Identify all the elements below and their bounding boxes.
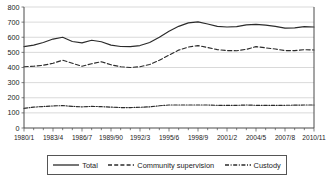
chart-legend: Total Community supervision Custody bbox=[47, 155, 287, 175]
line-chart-plot: 0100200300400500600700800 1980/11983/419… bbox=[0, 0, 330, 152]
x-axis-tick-label: 1986/7 bbox=[72, 134, 93, 141]
legend-entry-custody: Custody bbox=[225, 161, 281, 170]
x-axis-tick-label: 1992/3 bbox=[130, 134, 151, 141]
x-axis-tick-label: 1995/6 bbox=[159, 134, 180, 141]
solid-line-swatch bbox=[53, 161, 79, 169]
legend-entry-total: Total bbox=[53, 161, 98, 170]
legend-label-total: Total bbox=[82, 161, 98, 170]
x-axis-tick-label: 2001/2 bbox=[217, 134, 238, 141]
x-axis-tick-label: 1980/1 bbox=[14, 134, 35, 141]
x-axis-tick-label: 2007/8 bbox=[275, 134, 296, 141]
series-line-total bbox=[24, 22, 314, 47]
y-axis-tick-label: 500 bbox=[8, 48, 20, 57]
dashdot-line-swatch bbox=[225, 161, 251, 169]
x-axis-tick-label: 2010/11 bbox=[302, 134, 326, 141]
legend-label-community-supervision: Community supervision bbox=[137, 161, 214, 170]
x-axis-tick-label: 2004/5 bbox=[246, 134, 267, 141]
x-axis-tick-label: 1983/4 bbox=[43, 134, 64, 141]
series-line-custody bbox=[24, 105, 314, 108]
dashed-line-swatch bbox=[108, 161, 134, 169]
y-axis-tick-label: 300 bbox=[8, 78, 20, 87]
y-axis-tick-label: 400 bbox=[8, 63, 20, 72]
x-axis-tick-marks bbox=[24, 128, 314, 132]
x-axis-tick-label: 1989/90 bbox=[99, 134, 123, 141]
y-axis-tick-labels: 0100200300400500600700800 bbox=[8, 3, 20, 133]
y-axis-tick-label: 800 bbox=[8, 3, 20, 12]
series-line-community-supervision bbox=[24, 46, 314, 68]
y-axis-tick-label: 100 bbox=[8, 108, 20, 117]
legend-label-custody: Custody bbox=[254, 161, 281, 170]
y-axis-tick-label: 0 bbox=[16, 124, 20, 133]
y-axis-tick-label: 600 bbox=[8, 33, 20, 42]
x-axis-tick-labels: 1980/11983/41986/71989/901992/31995/6199… bbox=[14, 134, 326, 141]
y-axis-tick-label: 200 bbox=[8, 93, 20, 102]
data-series bbox=[24, 22, 314, 109]
chart-figure: 0100200300400500600700800 1980/11983/419… bbox=[0, 0, 330, 181]
legend-entry-community-supervision: Community supervision bbox=[108, 161, 214, 170]
y-axis-tick-label: 700 bbox=[8, 18, 20, 27]
x-axis-tick-label: 1998/9 bbox=[188, 134, 209, 141]
